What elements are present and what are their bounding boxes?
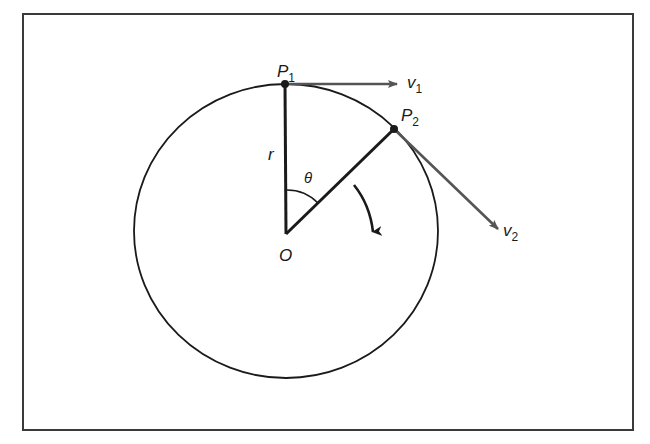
label-p2: P2	[401, 106, 419, 129]
rotation-arrow	[354, 185, 373, 232]
theta-arc	[286, 190, 318, 203]
label-v1: v1	[407, 73, 423, 96]
label-v2: v2	[503, 221, 519, 244]
label-o: O	[279, 246, 292, 265]
figure-frame	[23, 14, 633, 430]
circular-motion-diagram: P1 P2 v1 v2 r θ O	[0, 0, 650, 444]
radius-line-op2	[286, 129, 394, 234]
velocity-vector-v2	[394, 129, 498, 229]
label-theta: θ	[304, 169, 312, 186]
radius-line-op1	[285, 84, 286, 234]
point-p2-dot	[390, 125, 398, 133]
label-r: r	[268, 145, 275, 164]
